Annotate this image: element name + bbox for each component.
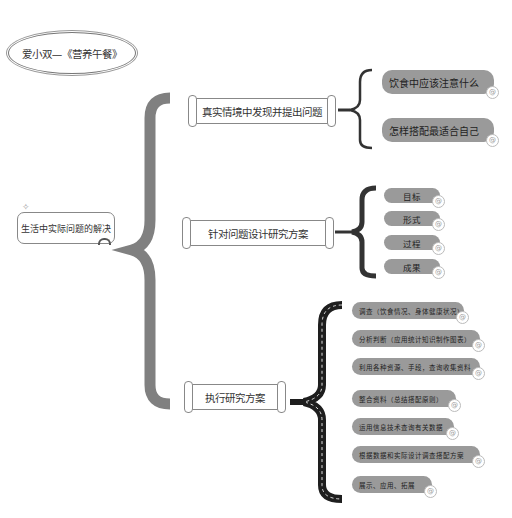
swirl-icon: @ [486,86,499,99]
leaf-node[interactable]: 怎样搭配最适合自己 @ [382,118,494,142]
swirl-icon: @ [432,242,445,255]
branch-label: 真实情境中发现并提出问题 [202,104,322,119]
leaf-node[interactable]: 运用信息技术查询有关数据 @ [352,418,454,435]
leaf-node[interactable]: 形式 @ [384,211,440,226]
brace-branch-2 [352,188,376,276]
leaf-label: 分析判断（应用统计知识制作图表） [359,334,471,344]
swirl-icon: @ [456,311,469,324]
leaf-label: 展示、应用、拓展 [359,480,415,490]
swirl-icon: @ [472,455,485,468]
leaf-label: 利用各种资源、手段，查询收集资料 [359,362,471,372]
leaf-node[interactable]: 展示、应用、拓展 @ [352,476,432,493]
leaf-node[interactable]: 饮食中应该注意什么 @ [382,70,494,94]
sparkle-icon: ✧ [22,202,30,212]
leaf-label: 根据数据和实际设计调查搭配方案 [359,450,464,460]
branch-node-2[interactable]: 针对问题设计研究方案 [188,220,328,246]
leaf-label: 饮食中应该注意什么 [389,75,479,90]
swirl-icon: @ [424,485,437,498]
leaf-node[interactable]: 目标 @ [384,188,440,203]
branch-node-1[interactable]: 真实情境中发现并提出问题 [194,98,330,124]
leaf-node[interactable]: 利用各种资源、手段，查询收集资料 @ [352,358,480,375]
brace-branch-1 [350,70,372,148]
leaf-label: 调查（饮食情况、身体健康状况） [359,306,464,316]
leaf-node[interactable]: 分析判断（应用统计知识制作图表） @ [352,330,480,347]
leaf-node[interactable]: 调查（饮食情况、身体健康状况） @ [352,302,464,319]
rainbow-icon [98,238,111,245]
swirl-icon: @ [446,427,459,440]
leaf-label: 过程 [403,237,421,249]
root-label: 生活中实际问题的解决 [21,222,111,235]
branch-node-3[interactable]: 执行研究方案 [190,384,280,410]
leaf-label: 目标 [403,190,421,202]
swirl-icon: @ [472,367,485,380]
leaf-label: 整合资料（总结搭配原则） [359,394,443,404]
title-text: 爱小双—《营养午餐》 [22,46,123,61]
swirl-icon: @ [432,266,445,279]
leaf-label: 形式 [403,213,421,225]
leaf-label: 成果 [403,261,421,273]
title-node[interactable]: 爱小双—《营养午餐》 [8,32,136,74]
leaf-node[interactable]: 过程 @ [384,235,440,250]
swirl-icon: @ [448,399,461,412]
leaf-node[interactable]: 整合资料（总结搭配原则） @ [352,390,456,407]
leaf-label: 运用信息技术查询有关数据 [359,422,443,432]
leaf-node[interactable]: 根据数据和实际设计调查搭配方案 @ [352,446,480,463]
brace-branch-3 [304,305,342,499]
leaf-label: 怎样搭配最适合自己 [389,123,479,138]
branch-label: 执行研究方案 [205,390,265,405]
main-brace [132,98,170,404]
swirl-icon: @ [432,195,445,208]
leaf-node[interactable]: 成果 @ [384,259,440,274]
swirl-icon: @ [472,339,485,352]
swirl-icon: @ [432,218,445,231]
swirl-icon: @ [486,134,499,147]
branch-label: 针对问题设计研究方案 [208,226,308,241]
